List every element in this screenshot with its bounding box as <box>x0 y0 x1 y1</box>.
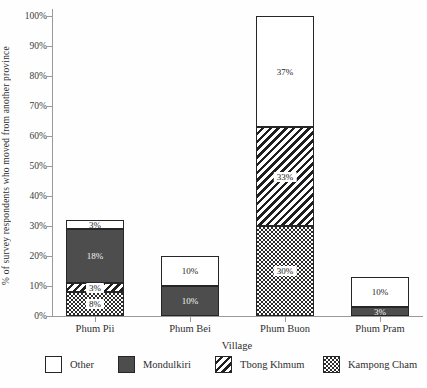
segment-label: 10% <box>182 296 199 306</box>
y-axis-line <box>52 9 53 317</box>
y-tick-label: 30% <box>7 220 47 232</box>
y-tick-label: 60% <box>7 130 47 142</box>
y-tick-mark <box>47 286 52 287</box>
segment-label: 10% <box>182 266 199 276</box>
y-tick-label: 70% <box>7 100 47 112</box>
legend-item: Kampong Cham <box>323 354 417 374</box>
y-tick-label: 40% <box>7 190 47 202</box>
stacked-bar-chart-figure: % of survey respondents who moved from a… <box>0 0 427 388</box>
segment-label: 33% <box>274 172 297 182</box>
bar-segment: 33% <box>256 127 314 226</box>
legend-swatch <box>118 356 135 373</box>
segment-label: 3% <box>89 220 101 230</box>
bar-segment: 3% <box>66 220 124 229</box>
y-tick-mark <box>47 166 52 167</box>
y-tick-label: 0% <box>7 310 47 322</box>
y-tick-mark <box>47 316 52 317</box>
x-tick-label: Phum Pii <box>50 323 140 334</box>
x-tick-label: Phum Bei <box>145 323 235 334</box>
x-tick-mark <box>190 317 191 322</box>
y-tick-label: 100% <box>7 10 47 22</box>
legend-label: Tbong Khmum <box>240 359 304 370</box>
bar-segment: 30% <box>256 226 314 316</box>
legend-item: Other <box>45 354 94 374</box>
bar-segment: 18% <box>66 229 124 283</box>
x-axis-line <box>52 316 423 317</box>
segment-label: 10% <box>372 287 389 297</box>
y-tick-mark <box>47 196 52 197</box>
x-tick-mark <box>380 317 381 322</box>
bar-segment: 37% <box>256 16 314 127</box>
bar-segment: 8% <box>66 292 124 316</box>
legend-label: Mondulkiri <box>143 359 191 370</box>
y-tick-mark <box>47 16 52 17</box>
y-tick-label: 20% <box>7 250 47 262</box>
y-tick-mark <box>47 46 52 47</box>
legend-label: Kampong Cham <box>348 359 417 370</box>
bar-segment: 3% <box>66 283 124 292</box>
x-tick-mark <box>95 317 96 322</box>
bar-segment: 10% <box>351 277 409 307</box>
legend-item: Tbong Khmum <box>215 354 304 374</box>
bar-segment: 10% <box>161 286 219 316</box>
y-tick-mark <box>47 136 52 137</box>
y-tick-label: 80% <box>7 70 47 82</box>
legend-swatch <box>323 356 340 373</box>
legend-swatch <box>215 356 232 373</box>
segment-label: 30% <box>274 266 297 276</box>
bar-segment: 3% <box>351 307 409 316</box>
y-tick-mark <box>47 106 52 107</box>
segment-label: 37% <box>277 67 294 77</box>
y-tick-mark <box>47 256 52 257</box>
legend-item: Mondulkiri <box>118 354 191 374</box>
y-tick-mark <box>47 76 52 77</box>
segment-label: 8% <box>86 299 104 309</box>
x-tick-label: Phum Pram <box>335 323 425 334</box>
legend-swatch <box>45 356 62 373</box>
bar-segment: 10% <box>161 256 219 286</box>
segment-label: 3% <box>374 307 386 317</box>
segment-label: 3% <box>86 283 104 293</box>
y-tick-label: 10% <box>7 280 47 292</box>
x-tick-label: Phum Buon <box>240 323 330 334</box>
y-tick-mark <box>47 226 52 227</box>
segment-label: 18% <box>87 251 104 261</box>
x-axis-title: Village <box>187 340 287 351</box>
y-tick-label: 90% <box>7 40 47 52</box>
legend-label: Other <box>70 359 94 370</box>
y-tick-label: 50% <box>7 160 47 172</box>
x-tick-mark <box>285 317 286 322</box>
